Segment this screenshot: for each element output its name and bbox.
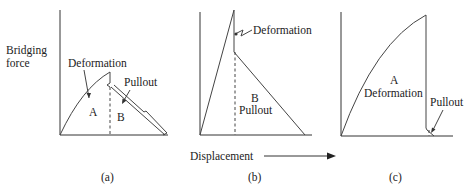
- arrowhead-icon: [87, 93, 92, 98]
- panel-c-pullout-pointer: [433, 110, 443, 130]
- panel-b-pullout-label: Pullout: [239, 104, 273, 116]
- panel-a-deformation-curve: [60, 72, 110, 135]
- arrowhead-icon: [431, 128, 436, 134]
- bridging-force-diagram: Bridging force Deformation Pullout A B (…: [0, 0, 476, 188]
- panel-a-pullout-label: Pullout: [124, 76, 158, 88]
- panel-c-caption: (c): [389, 171, 402, 184]
- panel-b-deformation-curve: [200, 10, 234, 135]
- panel-b-caption: (b): [248, 171, 262, 184]
- panel-a: Deformation Pullout A B (a): [60, 10, 168, 184]
- panel-c-deformation-label: Deformation: [364, 87, 423, 99]
- panel-b-deformation-pointer: [235, 30, 252, 36]
- panel-a-pullout-curve-outer: [114, 85, 167, 135]
- panel-a-region-b: B: [117, 111, 125, 123]
- panel-c-region-a: A: [390, 74, 399, 86]
- panel-a-caption: (a): [101, 171, 114, 184]
- y-axis-label-line2: force: [6, 57, 30, 69]
- panel-b-deformation-label: Deformation: [253, 24, 312, 36]
- arrow-right-icon: [327, 153, 336, 160]
- panel-b-region-b: B: [251, 92, 259, 104]
- panel-a-peak-drop: [107, 72, 110, 87]
- y-axis-label-line1: Bridging: [6, 44, 47, 57]
- panel-c-deformation-curve: [341, 15, 426, 136]
- panel-c-pullout-label: Pullout: [430, 96, 464, 108]
- panel-b-pullout-curve: [234, 52, 305, 135]
- panel-a-deformation-label: Deformation: [68, 57, 127, 69]
- marker-dot-icon: [234, 32, 237, 35]
- x-axis-label: Displacement: [190, 150, 254, 163]
- panel-c: A Deformation Pullout (c): [341, 12, 464, 184]
- panel-a-region-a: A: [89, 106, 98, 118]
